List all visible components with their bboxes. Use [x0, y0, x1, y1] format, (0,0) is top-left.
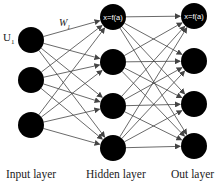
connection-arrow: [126, 146, 180, 147]
activation-formula-label: x=f(a): [103, 13, 123, 22]
neuron-node: [100, 135, 126, 161]
connection-arrow: [41, 71, 102, 118]
neuron-node: [100, 49, 126, 75]
neuron-node: [181, 91, 207, 117]
neuron-node: [18, 27, 44, 53]
neuron-node: [18, 112, 44, 138]
connection-arrow: [39, 28, 105, 114]
neuron-node: [181, 133, 207, 159]
connection-arrow: [41, 26, 102, 73]
neuron-node: [181, 48, 207, 74]
weight-w1-label: W1: [59, 17, 70, 30]
connection-edges: [39, 16, 187, 148]
connection-arrow: [41, 48, 102, 97]
neural-network-diagram: x=f(a)x=f(a) U1 W1 Input layer Hidden la…: [0, 0, 220, 189]
neuron-node: [100, 93, 126, 119]
connection-arrow: [41, 88, 102, 139]
connection-arrow: [44, 129, 100, 145]
input-layer-label: Input layer: [6, 168, 56, 180]
out-layer-label: Out layer: [171, 168, 214, 180]
input-u1-label: U1: [3, 31, 14, 46]
connection-arrow: [43, 84, 99, 102]
network-graph: x=f(a)x=f(a): [0, 0, 220, 189]
layer-nodes: x=f(a)x=f(a): [18, 3, 207, 161]
hidden-layer-label: Hidden layer: [86, 168, 146, 180]
connection-arrow: [126, 16, 180, 17]
neuron-node: [18, 67, 44, 93]
connection-arrow: [44, 109, 100, 122]
activation-formula-label: x=f(a): [184, 12, 204, 21]
